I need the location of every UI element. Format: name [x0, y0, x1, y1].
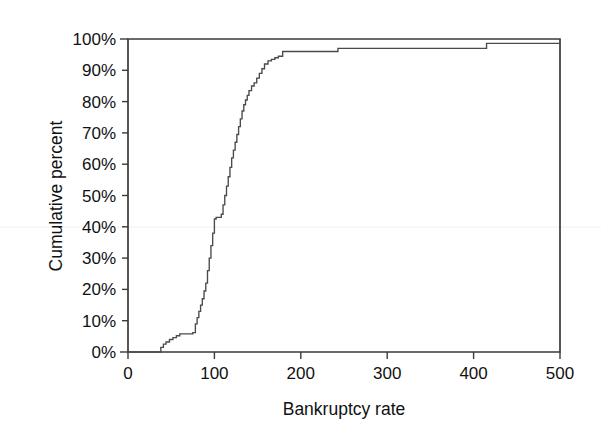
- x-tick-label-0: 0: [123, 364, 132, 383]
- y-tick-label-90: 90%: [82, 61, 116, 80]
- y-tick-label-20: 20%: [82, 280, 116, 299]
- chart-figure: 0100200300400500 0%10%20%30%40%50%60%70%…: [0, 0, 601, 435]
- y-tick-label-50: 50%: [82, 187, 116, 206]
- x-axis-title: Bankruptcy rate: [283, 399, 406, 419]
- x-tick-label-500: 500: [546, 364, 574, 383]
- x-tick-label-300: 300: [373, 364, 401, 383]
- x-tick-label-400: 400: [459, 364, 487, 383]
- cumulative-percent-chart: 0100200300400500 0%10%20%30%40%50%60%70%…: [0, 0, 601, 435]
- x-tick-label-200: 200: [287, 364, 315, 383]
- y-tick-label-60: 60%: [82, 155, 116, 174]
- x-tick-label-100: 100: [200, 364, 228, 383]
- y-tick-label-80: 80%: [82, 93, 116, 112]
- y-tick-label-0: 0%: [91, 343, 116, 362]
- y-tick-label-100: 100%: [73, 30, 116, 49]
- y-tick-label-30: 30%: [82, 249, 116, 268]
- y-axis-title: Cumulative percent: [46, 120, 66, 271]
- y-tick-label-70: 70%: [82, 124, 116, 143]
- y-tick-label-10: 10%: [82, 312, 116, 331]
- y-tick-label-40: 40%: [82, 218, 116, 237]
